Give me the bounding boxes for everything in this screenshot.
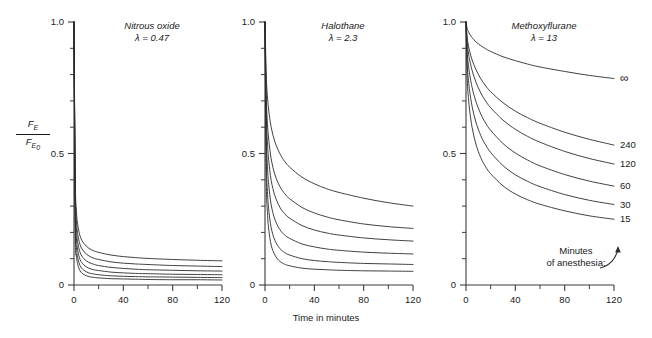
curve-30: [265, 22, 413, 264]
y-tick-label: 1.0: [38, 16, 64, 27]
curve-60: [265, 22, 413, 254]
panel-title: Methoxyfluraneλ = 13: [464, 20, 624, 44]
curve-end-label-15: 15: [620, 213, 631, 224]
x-tick-label: 0: [59, 294, 89, 305]
y-tick-label: 0.5: [38, 148, 64, 159]
x-tick-label: 120: [599, 294, 629, 305]
figure-container: FE FE0 Time in minutes Minutes of anesth…: [0, 0, 652, 338]
panel-title-text: Nitrous oxide: [124, 20, 179, 31]
panel-lambda-label: λ = 2.3: [263, 32, 423, 44]
y-tick-label: 1.0: [430, 16, 456, 27]
x-tick-label: 80: [158, 294, 188, 305]
curve-15: [466, 22, 614, 219]
curve-∞: [265, 22, 413, 206]
curve-end-label-60: 60: [620, 180, 631, 191]
panel-methoxyflurane: [460, 22, 614, 291]
y-tick-label: 0.5: [430, 148, 456, 159]
curve-240: [265, 22, 413, 228]
curve-240: [74, 22, 222, 267]
panel-lambda-label: λ = 0.47: [72, 32, 232, 44]
note-arrow: [600, 249, 618, 268]
curve-end-label-30: 30: [620, 199, 631, 210]
panel-lambda-label: λ = 13: [464, 32, 624, 44]
panel-halothane: [259, 22, 413, 291]
x-tick-label: 120: [207, 294, 237, 305]
curve-15: [265, 22, 413, 271]
note-arrow-head: [615, 246, 621, 252]
y-tick-label: 0: [430, 279, 456, 290]
curve-120: [74, 22, 222, 271]
curve-end-label-∞: ∞: [620, 74, 629, 83]
y-tick-label: 0.5: [229, 148, 255, 159]
curve-30: [466, 22, 614, 205]
panel-title: Halothaneλ = 2.3: [263, 20, 423, 44]
curve-120: [265, 22, 413, 241]
chart-canvas: [0, 0, 652, 338]
curve-60: [74, 22, 222, 275]
panel-title-text: Halothane: [321, 20, 364, 31]
x-tick-label: 40: [108, 294, 138, 305]
y-tick-label: 1.0: [229, 16, 255, 27]
panel-title: Nitrous oxideλ = 0.47: [72, 20, 232, 44]
y-tick-label: 0: [229, 279, 255, 290]
panel-title-text: Methoxyflurane: [512, 20, 577, 31]
x-tick-label: 80: [349, 294, 379, 305]
y-tick-label: 0: [38, 279, 64, 290]
curve-∞: [74, 22, 222, 261]
curve-15: [74, 22, 222, 280]
panel-nitrous-oxide: [68, 22, 222, 291]
curve-end-label-120: 120: [620, 158, 636, 169]
x-tick-label: 0: [451, 294, 481, 305]
curve-30: [74, 22, 222, 278]
x-tick-label: 120: [398, 294, 428, 305]
x-tick-label: 40: [299, 294, 329, 305]
x-tick-label: 80: [550, 294, 580, 305]
curve-end-label-240: 240: [620, 139, 636, 150]
x-tick-label: 0: [250, 294, 280, 305]
x-tick-label: 40: [500, 294, 530, 305]
